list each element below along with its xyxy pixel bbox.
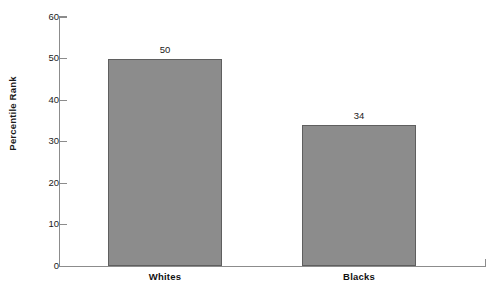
y-tick-mark-40 [60,100,67,101]
y-tick-label-10: 10 [13,219,59,229]
y-tick-label-40: 40 [13,95,59,105]
y-tick-label-60: 60 [13,12,59,22]
y-tick-mark-10 [60,224,67,225]
y-tick-label-wrap-0: 0 [0,261,59,271]
x-axis-right-cap [485,259,486,267]
bar-blacks[interactable] [302,125,416,266]
y-tick-label-wrap-20: 20 [0,178,59,188]
y-tick-mark-60 [60,17,67,18]
y-axis-title: Percentile Rank [7,54,18,174]
y-tick-label-30: 30 [13,136,59,146]
y-tick-mark-0 [60,266,67,267]
y-tick-label-0: 0 [13,261,59,271]
y-tick-label-50: 50 [13,53,59,63]
y-tick-mark-50 [60,58,67,59]
y-tick-label-wrap-40: 40 [0,95,59,105]
y-tick-label-wrap-60: 60 [0,12,59,22]
y-tick-label-wrap-10: 10 [0,219,59,229]
bar-value-blacks: 34 [302,110,416,121]
cropped-title-remnant [60,0,460,3]
bar-value-whites: 50 [108,44,222,55]
bar-whites[interactable] [108,59,222,267]
x-category-label-whites: Whites [108,270,222,283]
y-tick-label-wrap-30: 30 [0,136,59,146]
x-category-label-blacks: Blacks [302,270,416,283]
y-tick-mark-20 [60,183,67,184]
y-tick-label-wrap-50: 50 [0,53,59,63]
y-tick-mark-30 [60,141,67,142]
bar-chart: Percentile Rank 0 10 20 30 40 50 60 50 W… [0,0,495,296]
x-axis-line [59,266,486,267]
y-tick-label-20: 20 [13,178,59,188]
